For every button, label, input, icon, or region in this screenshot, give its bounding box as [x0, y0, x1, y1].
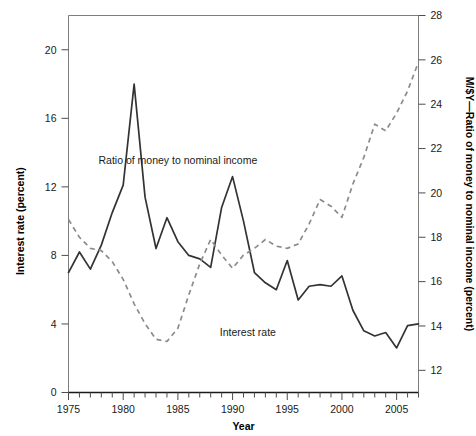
chart-figure: 1975198019851990199520002005Year04812162…: [0, 0, 476, 436]
x-tick-label: 1980: [112, 403, 136, 415]
series-line-interest-rate: [69, 84, 419, 348]
y-axis-ticks: 048121620: [45, 44, 69, 399]
x-tick-label: 2000: [330, 403, 354, 415]
x-tick-label: 1995: [276, 403, 300, 415]
series-line-ratio-of-money-to-nominal-income: [69, 62, 419, 341]
y2-axis-ticks: 121416182022242628: [419, 9, 443, 376]
x-tick-label: 1985: [166, 403, 190, 415]
x-axis-ticks: [69, 393, 419, 401]
y-axis-title: Interest rate (percent): [14, 167, 26, 275]
y-tick-label: 12: [45, 181, 57, 193]
y-tick-label: 4: [51, 318, 57, 330]
y-tick-label: 0: [51, 386, 57, 398]
y-tick-label: 8: [51, 249, 57, 261]
series-annotation-interest-rate: Interest rate: [220, 326, 276, 338]
series-annotation-money-ratio: Ratio of money to nominal income: [99, 154, 258, 166]
y2-axis-title: M/$Y—Ratio of money to nominal income (p…: [464, 77, 476, 331]
y2-tick-label: 24: [431, 98, 443, 110]
y2-tick-label: 20: [431, 187, 443, 199]
y2-tick-label: 14: [431, 320, 443, 332]
x-tick-label: 1975: [57, 403, 81, 415]
y-tick-label: 16: [45, 112, 57, 124]
y2-tick-label: 18: [431, 231, 443, 243]
x-axis-title: Year: [232, 420, 254, 432]
y2-tick-label: 28: [431, 9, 443, 21]
x-tick-label: 2005: [385, 403, 409, 415]
x-tick-label: 1990: [221, 403, 245, 415]
y-tick-label: 20: [45, 44, 57, 56]
y2-tick-label: 22: [431, 142, 443, 154]
interest-rate-money-ratio-chart: 1975198019851990199520002005Year04812162…: [0, 0, 476, 436]
y2-tick-label: 26: [431, 54, 443, 66]
y2-tick-label: 12: [431, 364, 443, 376]
y2-tick-label: 16: [431, 275, 443, 287]
x-axis-tick-labels: 1975198019851990199520002005: [57, 403, 409, 415]
